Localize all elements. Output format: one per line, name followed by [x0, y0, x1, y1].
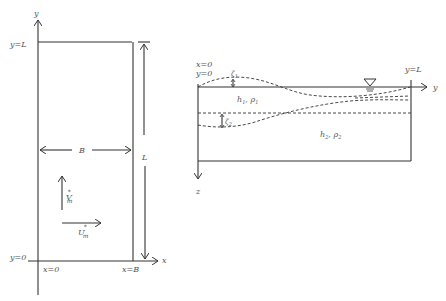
u-velocity-label: U*m [78, 223, 89, 239]
upper-layer-label: h1, ρ1 [237, 95, 258, 105]
surface-minor-dash [355, 96, 410, 98]
v-velocity-label: V*m [66, 188, 73, 204]
y-equals-0-label: y=0 [195, 69, 212, 78]
diagram-canvas: y x y=L y=0 x=0 x=B B L V*m U*m x=0 y=0 … [0, 0, 446, 301]
y-axis-label: y [33, 9, 39, 18]
z-axis-label: z [195, 187, 201, 196]
x-axis-label: x [162, 256, 167, 265]
lower-layer-label: h2, ρ2 [320, 130, 341, 140]
y-equals-0-label: y=0 [9, 253, 26, 262]
free-surface-symbol-icon [364, 79, 376, 86]
y-equals-L-label: y=L [9, 40, 27, 49]
right-figure-cross-section: x=0 y=0 y=L y z ζ1 ζ2 h1, ρ1 h2, ρ2 [195, 60, 438, 196]
zeta1-label: ζ1 [231, 70, 238, 79]
x-equals-B-label: x=B [122, 265, 139, 274]
width-label: B [78, 146, 85, 155]
x-equals-0-label: x=0 [43, 265, 59, 274]
zeta2-label: ζ2 [225, 118, 232, 127]
y-equals-L-label: y=L [404, 65, 422, 74]
x-equals-0-label: x=0 [196, 60, 212, 69]
length-label: L [141, 153, 147, 162]
y-axis-label: y [432, 83, 438, 92]
left-figure-plan-view: y x y=L y=0 x=0 x=B B L V*m U*m [9, 9, 167, 295]
